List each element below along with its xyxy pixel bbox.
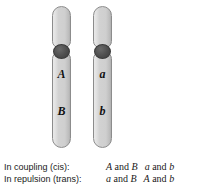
caption-block: In coupling (cis): A and B a and b In re… xyxy=(4,161,200,185)
allele-label-B: B xyxy=(52,105,71,117)
conjunction: and xyxy=(115,161,129,172)
conjunction: and xyxy=(114,173,128,184)
conjunction: and xyxy=(152,173,166,184)
gene-symbol: b xyxy=(169,161,174,172)
chromosome-diagram: A B a b xyxy=(0,0,200,158)
chromosome-right-short-arm xyxy=(93,6,112,48)
caption-label-coupling: In coupling (cis): xyxy=(4,162,106,173)
genotype-pair-repulsion-1: a and B xyxy=(106,173,137,184)
genotype-pair-coupling-2: a and b xyxy=(145,161,174,172)
chromosome-left-centromere xyxy=(53,44,70,59)
allele-label-a: a xyxy=(93,68,112,80)
gene-symbol: B xyxy=(130,173,136,184)
conjunction: and xyxy=(152,161,166,172)
genotype-pair-coupling-1: A and B xyxy=(106,161,138,172)
caption-pairs-coupling: A and B a and b xyxy=(106,161,174,172)
caption-row-repulsion: In repulsion (trans): a and B A and b xyxy=(4,173,200,185)
caption-pairs-repulsion: a and B A and b xyxy=(106,173,174,184)
chromosome-left-short-arm xyxy=(52,6,71,48)
gene-symbol: a xyxy=(145,161,150,172)
genotype-pair-repulsion-2: A and b xyxy=(144,173,175,184)
chromosome-left: A B xyxy=(52,6,72,150)
gene-symbol: B xyxy=(132,161,138,172)
allele-label-b: b xyxy=(93,105,112,117)
gene-symbol: A xyxy=(106,161,112,172)
allele-label-A: A xyxy=(52,68,71,80)
gene-symbol: a xyxy=(106,173,111,184)
gene-symbol: b xyxy=(169,173,174,184)
chromosome-right-centromere xyxy=(94,44,111,59)
caption-label-repulsion: In repulsion (trans): xyxy=(4,174,106,185)
caption-row-coupling: In coupling (cis): A and B a and b xyxy=(4,161,200,173)
chromosome-right: a b xyxy=(93,6,113,150)
gene-symbol: A xyxy=(144,173,150,184)
